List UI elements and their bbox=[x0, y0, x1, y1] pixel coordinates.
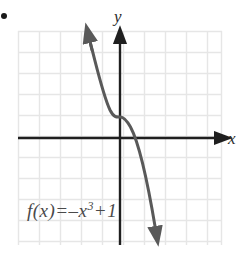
equation-constant: 1 bbox=[107, 200, 117, 221]
equation-function-name: f(x) bbox=[27, 200, 55, 221]
function-curve-upper-arrow bbox=[90, 40, 92, 50]
x-axis-label: x bbox=[228, 130, 236, 147]
y-axis-label: y bbox=[114, 8, 122, 25]
figure-container: y x f(x)=–x3+1 bbox=[0, 0, 244, 260]
equation-plus-sign: + bbox=[94, 200, 107, 221]
function-equation-label: f(x)=–x3+1 bbox=[27, 200, 117, 220]
equation-equals-sign: = bbox=[55, 200, 68, 221]
equation-cubic-term: –x bbox=[69, 200, 88, 221]
